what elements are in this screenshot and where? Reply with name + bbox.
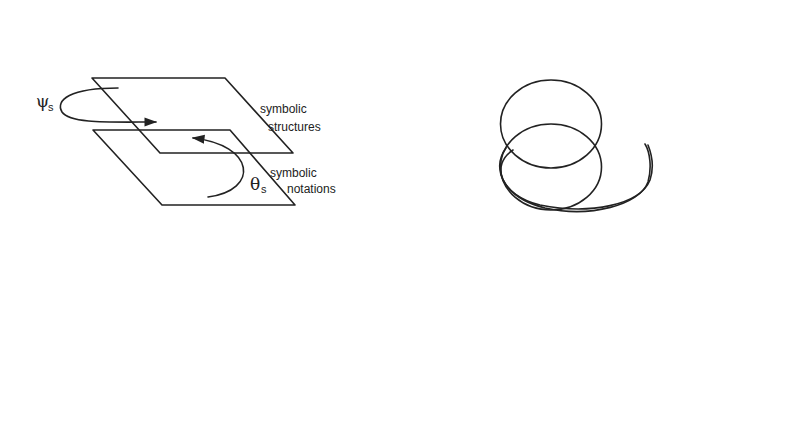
figure bbox=[0, 0, 806, 421]
abstract-entities-ellipse bbox=[501, 124, 602, 210]
